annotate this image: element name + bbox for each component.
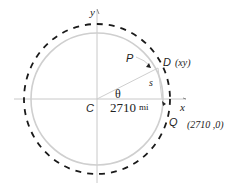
point-d-label: D: [163, 56, 171, 68]
angle-theta-label: θ: [115, 87, 121, 101]
y-axis-label: y: [89, 6, 95, 18]
x-axis-label: x: [179, 101, 185, 113]
point-d-coords: (xy): [175, 57, 191, 69]
orbit-diagram: y x C P D (xy) Q (2710 ,0) θ s 2710 mi: [0, 0, 239, 188]
radius-value-label: 2710: [110, 100, 136, 115]
center-label: C: [86, 102, 94, 114]
p-arrowhead-icon: [146, 63, 151, 68]
point-p-label: P: [126, 52, 134, 64]
arc-s-label: s: [149, 77, 153, 88]
point-q-coords: (2710 ,0): [187, 119, 224, 131]
radius-unit-label: mi: [139, 102, 149, 112]
point-q-label: Q: [169, 116, 178, 128]
